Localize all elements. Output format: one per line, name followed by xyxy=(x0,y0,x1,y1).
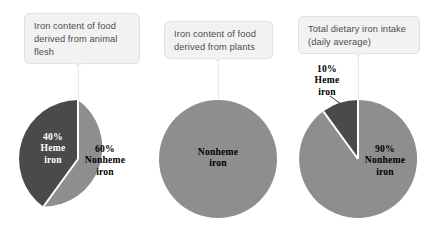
slice-label-heme-animal-flesh-pct: 40% xyxy=(43,131,63,142)
external-label-heme-total-dietary: 10% Heme iron xyxy=(303,63,351,97)
slice-label-nonheme-animal-flesh: 60% Nonheme iron xyxy=(76,143,134,177)
slice-label-nonheme-plants: Nonheme iron xyxy=(183,146,253,169)
callout-stem-plants xyxy=(218,63,219,100)
callout-animal-flesh-line-3: flesh xyxy=(34,46,131,59)
pie-chart-total-dietary: 90% Nonheme iron xyxy=(299,100,417,218)
slice-label-heme-animal-flesh-name2: iron xyxy=(44,154,62,165)
slice-label-nonheme-total-dietary: 90% Nonheme iron xyxy=(356,143,414,177)
callout-stem-total-dietary xyxy=(358,58,359,100)
slice-label-nonheme-total-dietary-pct: 90% xyxy=(375,143,395,154)
slice-label-nonheme-animal-flesh-name1: Nonheme xyxy=(85,154,125,165)
slice-label-nonheme-total-dietary-name2: iron xyxy=(376,166,394,177)
slice-label-nonheme-animal-flesh-pct: 60% xyxy=(95,143,115,154)
slice-label-heme-animal-flesh-name1: Heme xyxy=(41,142,66,153)
slice-label-nonheme-plants-name1: Nonheme xyxy=(198,146,238,157)
pie-chart-plants: Nonheme iron xyxy=(159,100,277,218)
external-label-heme-name1: Heme xyxy=(315,74,340,85)
callout-animal-flesh-line-1: Iron content of food xyxy=(34,20,131,33)
callout-plants-line-2: derived from plants xyxy=(174,41,264,54)
callout-total-dietary-line-1: Total dietary iron intake xyxy=(308,23,411,36)
callout-stem-animal-flesh xyxy=(78,68,79,100)
callout-plants-line-1: Iron content of food xyxy=(174,28,264,41)
callout-animal-flesh: Iron content of food derived from animal… xyxy=(24,13,140,64)
callout-total-dietary-line-2: (daily average) xyxy=(308,36,411,49)
pie-chart-animal-flesh: 40% Heme iron 60% Nonheme iron xyxy=(19,100,137,218)
external-label-heme-pct: 10% xyxy=(317,63,337,74)
slice-label-nonheme-total-dietary-name1: Nonheme xyxy=(365,154,405,165)
slice-label-nonheme-plants-name2: iron xyxy=(209,157,227,168)
callout-plants: Iron content of food derived from plants xyxy=(164,21,273,59)
slice-label-nonheme-animal-flesh-name2: iron xyxy=(96,166,114,177)
slice-label-heme-animal-flesh: 40% Heme iron xyxy=(29,131,77,165)
callout-total-dietary: Total dietary iron intake (daily average… xyxy=(298,16,420,54)
iron-content-pie-figure: Iron content of food derived from animal… xyxy=(0,0,439,238)
callout-animal-flesh-line-2: derived from animal xyxy=(34,33,131,46)
